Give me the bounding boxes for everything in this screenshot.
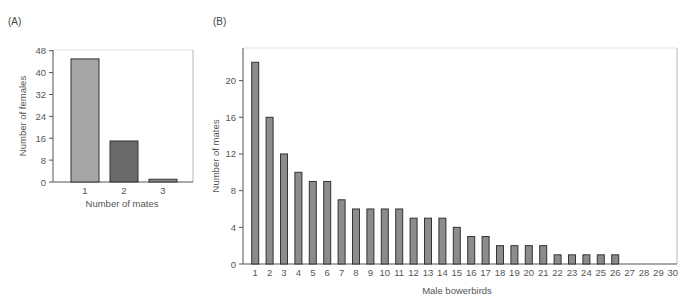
bar [439, 218, 446, 264]
bar [381, 209, 388, 264]
x-tick-label: 7 [339, 267, 344, 278]
x-tick-label: 1 [82, 185, 87, 196]
x-tick-label: 22 [552, 267, 563, 278]
x-tick-label: 8 [353, 267, 358, 278]
bar [612, 255, 619, 264]
bar [425, 218, 432, 264]
x-tick-label: 21 [538, 267, 549, 278]
x-tick-label: 25 [596, 267, 607, 278]
y-tick-label: 16 [35, 133, 46, 144]
bar [511, 246, 518, 264]
y-tick-label: 20 [225, 75, 236, 86]
x-tick-label: 26 [610, 267, 621, 278]
x-tick-label: 6 [325, 267, 330, 278]
x-tick-label: 19 [509, 267, 520, 278]
figure-canvas: 081624324048123Number of matesNumber of … [0, 0, 692, 308]
x-tick-label: 9 [368, 267, 373, 278]
x-tick-label: 14 [437, 267, 448, 278]
x-tick-label: 4 [296, 267, 301, 278]
y-tick-label: 0 [41, 177, 46, 188]
bar [554, 255, 561, 264]
x-tick-label: 27 [624, 267, 635, 278]
bar [569, 255, 576, 264]
panel-b-chart: 0481216201234567891011121314151617181920… [210, 48, 678, 296]
x-tick-label: 20 [524, 267, 535, 278]
bar [149, 179, 177, 182]
bar [295, 172, 302, 264]
bar [367, 209, 374, 264]
x-axis-title: Male bowerbirds [422, 285, 492, 296]
bar [338, 200, 345, 264]
x-tick-label: 24 [581, 267, 592, 278]
x-tick-label: 5 [310, 267, 315, 278]
y-tick-label: 40 [35, 67, 46, 78]
bar [252, 62, 259, 264]
bar [468, 236, 475, 264]
bar [110, 141, 138, 182]
y-tick-label: 32 [35, 89, 46, 100]
bar [482, 236, 489, 264]
y-tick-label: 48 [35, 45, 46, 56]
x-tick-label: 11 [394, 267, 404, 278]
bar [597, 255, 604, 264]
bar [583, 255, 590, 264]
x-tick-label: 23 [567, 267, 578, 278]
x-tick-label: 30 [668, 267, 679, 278]
bar [396, 209, 403, 264]
x-tick-label: 1 [253, 267, 258, 278]
y-axis-title: Number of mates [210, 119, 221, 192]
x-tick-label: 2 [121, 185, 126, 196]
bar [281, 154, 288, 264]
bar [266, 117, 273, 264]
y-tick-label: 4 [231, 222, 236, 233]
x-axis-title: Number of mates [86, 198, 159, 209]
x-tick-label: 18 [495, 267, 506, 278]
y-tick-label: 0 [231, 259, 236, 270]
x-tick-label: 2 [267, 267, 272, 278]
y-axis-title: Number of females [17, 76, 28, 157]
x-tick-label: 10 [380, 267, 391, 278]
panel-a-chart: 081624324048123Number of matesNumber of … [17, 45, 193, 209]
x-tick-label: 16 [466, 267, 477, 278]
bar [540, 246, 547, 264]
y-tick-label: 24 [35, 111, 46, 122]
bar [309, 181, 316, 264]
bar [324, 181, 331, 264]
x-tick-label: 13 [423, 267, 434, 278]
x-tick-label: 12 [408, 267, 419, 278]
y-tick-label: 8 [231, 185, 236, 196]
x-tick-label: 17 [480, 267, 491, 278]
y-tick-label: 16 [225, 112, 236, 123]
bar [71, 59, 99, 182]
x-tick-label: 3 [281, 267, 286, 278]
bar [525, 246, 532, 264]
x-tick-label: 15 [452, 267, 463, 278]
y-tick-label: 12 [225, 148, 236, 159]
bar [497, 246, 504, 264]
bar [353, 209, 360, 264]
bar [410, 218, 417, 264]
bar [453, 227, 460, 264]
y-tick-label: 8 [41, 155, 46, 166]
x-tick-label: 28 [639, 267, 650, 278]
x-tick-label: 29 [653, 267, 664, 278]
x-tick-label: 3 [160, 185, 165, 196]
